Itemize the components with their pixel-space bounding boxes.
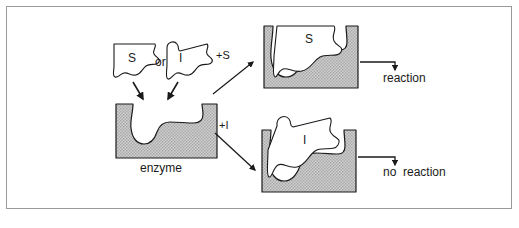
inhibitor-shape-free [166,42,212,79]
or-label: or [155,56,166,68]
arrow-reaction [360,62,395,70]
inhibitor-free-label: I [179,52,182,64]
arrow-substrate-to-enzyme [133,82,143,99]
diagram-canvas [0,0,519,228]
substrate-bound-label: S [305,33,313,45]
inhibitor-bound-label: I [303,134,306,146]
substrate-shape-free [113,44,159,77]
plus-inhibitor-label: +I [219,120,228,131]
enzyme-shape [116,104,217,158]
arrow-plus-substrate [213,62,253,94]
arrow-no-reaction [358,157,395,165]
enzyme-label: enzyme [140,162,182,174]
reaction-label: reaction [383,72,426,84]
plus-substrate-label: +S [216,50,230,61]
enzyme-inhibition-figure: S or I +S +I enzyme S I reaction no reac… [0,0,519,228]
caption-strip [0,214,519,228]
arrow-inhibitor-to-enzyme [168,82,178,99]
substrate-free-label: S [128,52,136,64]
enzyme-inhibitor-complex [262,117,356,192]
arrow-plus-inhibitor [215,133,255,170]
no-reaction-label: no reaction [383,166,446,178]
